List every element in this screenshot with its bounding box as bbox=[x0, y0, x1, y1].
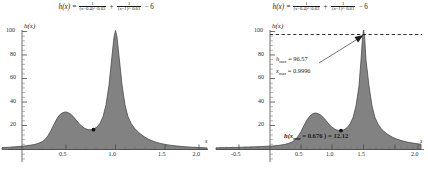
hmax-subscript: max bbox=[279, 59, 286, 64]
min-value: 12.12 bbox=[333, 132, 348, 139]
right-ytick-40: 40 bbox=[258, 98, 264, 104]
formula-term2-denominator-right: (x−1)²+0.01 bbox=[331, 7, 355, 12]
right-panel: h(x) = 1 (x−0.4)²+0.03 + 1 (x−1)²+0.01 −… bbox=[214, 0, 428, 174]
right-xtick-1.0: 1.0 bbox=[326, 151, 334, 157]
min-subscript: min bbox=[293, 136, 300, 141]
right-xtick-neg0.5: -0.5 bbox=[231, 151, 241, 157]
formula-term1-denominator: (x−0.4)²+0.03 bbox=[79, 7, 107, 12]
right-chart-svg bbox=[214, 18, 428, 174]
formula-lhs: h(x) = bbox=[59, 3, 77, 11]
formula-term2-denominator: (x−1)²+0.01 bbox=[117, 7, 141, 12]
formula-minus-six-right: − 6 bbox=[357, 3, 369, 11]
min-mid: = 0.676 ) = bbox=[302, 132, 332, 139]
left-x-axis-label: x bbox=[205, 138, 207, 144]
left-ytick-100: 100 bbox=[6, 27, 15, 33]
curve-area-left bbox=[2, 31, 207, 150]
left-y-axis-label: h(x) bbox=[24, 22, 35, 30]
left-ytick-80: 80 bbox=[10, 51, 16, 57]
right-ytick-80: 80 bbox=[258, 51, 264, 57]
formula-minus-six: − 6 bbox=[143, 3, 155, 11]
left-chart-svg bbox=[0, 18, 214, 174]
hmax-value: = 96.57 bbox=[288, 55, 308, 62]
local-minimum-annotation: h(xmin = 0.676 ) = 12.12 bbox=[284, 132, 348, 141]
formula-term2: 1 (x−1)²+0.01 bbox=[117, 2, 141, 13]
xmax-value: = 0.9996 bbox=[288, 67, 311, 74]
formula-term1-right: 1 (x−0.4)²+0.03 bbox=[293, 2, 321, 13]
left-ytick-60: 60 bbox=[10, 74, 16, 80]
right-y-axis-label: h(x) bbox=[272, 22, 283, 30]
formula-term1-denominator-right: (x−0.4)²+0.03 bbox=[293, 7, 321, 12]
left-panel: h(x) = 1 (x−0.4)²+0.03 + 1 (x−1)²+0.01 −… bbox=[0, 0, 214, 174]
left-xtick-0.5: 0.5 bbox=[59, 151, 67, 157]
formula-right: h(x) = 1 (x−0.4)²+0.03 + 1 (x−1)²+0.01 −… bbox=[214, 2, 428, 13]
right-ytick-100: 100 bbox=[254, 27, 263, 33]
xmax-annotation: xmax = 0.9996 bbox=[276, 67, 311, 76]
right-x-axis-label: x bbox=[420, 138, 422, 144]
right-chart: h(x) x 100 80 60 40 20 -0.5 0.5 1.0 1.5 … bbox=[214, 18, 428, 174]
left-xtick-1.0: 1.0 bbox=[109, 151, 117, 157]
hmax-arrow-shaft bbox=[319, 38, 360, 64]
xmax-subscript: max bbox=[279, 71, 286, 76]
right-xtick-0.5: 0.5 bbox=[295, 151, 303, 157]
left-ytick-20: 20 bbox=[10, 121, 16, 127]
formula-plus-right: + bbox=[322, 3, 329, 11]
right-ytick-20: 20 bbox=[258, 121, 264, 127]
formula-lhs-right: h(x) = bbox=[273, 3, 291, 11]
right-ytick-60: 60 bbox=[258, 74, 264, 80]
local-minimum-dot bbox=[92, 128, 96, 132]
formula-plus: + bbox=[108, 3, 115, 11]
left-chart: h(x) x 100 80 60 40 20 0.5 1.0 1.5 2.0 bbox=[0, 18, 214, 174]
formula-left: h(x) = 1 (x−0.4)²+0.03 + 1 (x−1)²+0.01 −… bbox=[0, 2, 214, 13]
right-xtick-1.5: 1.5 bbox=[358, 151, 366, 157]
formula-term1: 1 (x−0.4)²+0.03 bbox=[79, 2, 107, 13]
left-xtick-2.0: 2.0 bbox=[193, 151, 201, 157]
formula-term2-right: 1 (x−1)²+0.01 bbox=[331, 2, 355, 13]
figure-root: h(x) = 1 (x−0.4)²+0.03 + 1 (x−1)²+0.01 −… bbox=[0, 0, 428, 174]
hmax-annotation: hmax = 96.57 bbox=[276, 55, 308, 64]
min-prefix: h(x bbox=[284, 132, 293, 139]
left-xtick-1.5: 1.5 bbox=[158, 151, 166, 157]
left-ytick-40: 40 bbox=[10, 98, 16, 104]
right-xtick-2.0: 2.0 bbox=[411, 151, 419, 157]
